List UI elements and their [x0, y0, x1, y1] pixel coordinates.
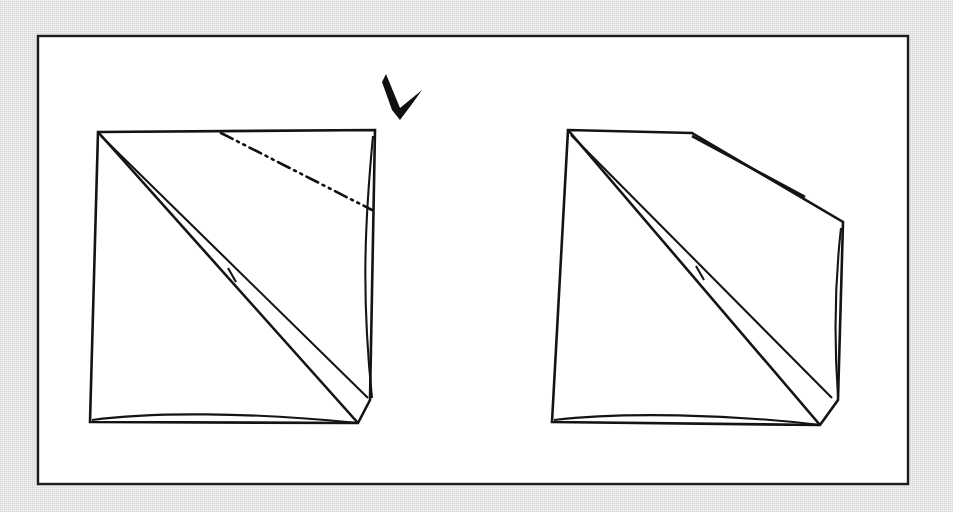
diagram-frame	[38, 36, 908, 484]
origami-diagram-canvas	[0, 0, 953, 512]
diagram-page	[0, 0, 953, 512]
